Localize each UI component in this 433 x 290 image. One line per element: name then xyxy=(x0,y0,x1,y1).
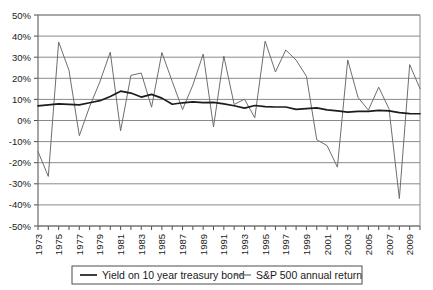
x-axis-tick-label: 2005 xyxy=(363,234,374,255)
y-axis-tick-label: 10% xyxy=(12,94,32,105)
x-axis-tick-label: 2003 xyxy=(342,234,353,255)
x-axis-labels-group: 1973197519771979198119831985198719891991… xyxy=(33,234,416,255)
y-axis-tick-label: 20% xyxy=(12,73,32,84)
x-axis-tick-label: 1983 xyxy=(136,234,147,255)
y-axis-tick-label: 40% xyxy=(12,31,32,42)
x-axis-tick-label: 1987 xyxy=(177,234,188,255)
x-axis-tick-label: 1989 xyxy=(198,234,209,255)
x-axis-tick-label: 1991 xyxy=(218,234,229,255)
y-axis-tick-label: -30% xyxy=(9,178,32,189)
legend-item-sp500-label: S&P 500 annual return xyxy=(256,269,362,281)
y-axis-tick-label: 30% xyxy=(12,52,32,63)
x-axis-tick-label: 1975 xyxy=(53,234,64,255)
x-axis-tick-label: 2001 xyxy=(322,234,333,255)
x-axis-tick-label: 2007 xyxy=(384,234,395,255)
series-line-sp500 xyxy=(38,41,420,198)
chart-container: 50%40%30%20%10%0%-10%-20%-30%-40%-50% 19… xyxy=(0,0,433,290)
x-axis-tick-label: 1985 xyxy=(156,234,167,255)
legend-item-treasury-yield-label: Yield on 10 year treasury bond xyxy=(102,269,245,281)
x-axis-tick-label: 1977 xyxy=(74,234,85,255)
y-axis-tick-label: 0% xyxy=(17,115,31,126)
x-axis-tick-label: 2009 xyxy=(404,234,415,255)
x-axis-tick-label: 1999 xyxy=(301,234,312,255)
y-axis-tick-label: 50% xyxy=(12,10,32,21)
x-axis-ticks-group xyxy=(38,226,420,230)
x-axis-tick-label: 1997 xyxy=(280,234,291,255)
data-series-group xyxy=(38,41,420,198)
line-chart: 50%40%30%20%10%0%-10%-20%-30%-40%-50% 19… xyxy=(0,0,433,290)
y-axis-tick-label: -20% xyxy=(9,157,32,168)
x-axis-tick-label: 1973 xyxy=(33,234,44,255)
y-axis-tick-label: -40% xyxy=(9,199,32,210)
x-axis-tick-label: 1981 xyxy=(115,234,126,255)
y-axis-tick-label: -10% xyxy=(9,136,32,147)
x-axis-tick-label: 1979 xyxy=(94,234,105,255)
y-axis-tick-label: -50% xyxy=(9,221,32,232)
chart-legend: Yield on 10 year treasury bondS&P 500 an… xyxy=(72,266,362,284)
gridlines-group xyxy=(34,15,420,226)
y-axis-labels-group: 50%40%30%20%10%0%-10%-20%-30%-40%-50% xyxy=(9,10,32,232)
x-axis-tick-label: 1993 xyxy=(239,234,250,255)
x-axis-tick-label: 1995 xyxy=(260,234,271,255)
